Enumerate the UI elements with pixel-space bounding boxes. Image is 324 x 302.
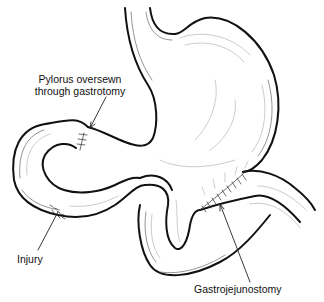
label-pylorus-oversewn: Pylorus oversewn through gastrotomy	[30, 73, 130, 97]
pylorus-suture-line	[77, 133, 87, 150]
pylorus-callout-arrow	[90, 97, 106, 128]
stomach-outline	[13, 8, 315, 275]
anastomosis-sutures	[200, 161, 248, 212]
injury-callout-arrow	[38, 212, 58, 250]
label-pylorus-line2: through gastrotomy	[30, 85, 130, 97]
label-pylorus-line1: Pylorus oversewn	[30, 73, 130, 85]
label-injury: Injury	[17, 253, 43, 265]
label-gastrojejunostomy: Gastrojejunostomy	[194, 283, 282, 295]
stomach-drawing	[0, 0, 324, 302]
anatomy-illustration	[0, 0, 324, 302]
